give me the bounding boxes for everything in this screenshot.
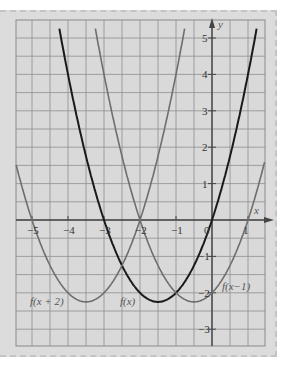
label-f-x-plus-2: f(x + 2) [30, 295, 64, 308]
label-f-x-minus-1: f(x−1) [222, 280, 251, 293]
y-tick-label: 5 [202, 32, 208, 44]
x-tick-label: −3 [99, 224, 111, 236]
x-tick-label: 0 [204, 224, 210, 236]
function-graph: −5−4−3−2−10154321−1−2−3 x y f(x + 2) f(x… [0, 0, 288, 368]
x-tick-label: −5 [27, 224, 39, 236]
y-tick-label: 4 [202, 68, 208, 80]
x-axis-label: x [253, 204, 259, 216]
y-tick-label: −1 [198, 250, 210, 262]
y-tick-label: −3 [198, 323, 210, 335]
x-tick-label: −4 [63, 224, 75, 236]
y-tick-label: −2 [198, 287, 210, 299]
x-tick-label: −1 [171, 224, 183, 236]
label-f-x: f(x) [120, 295, 136, 308]
x-axis-arrow-icon [264, 217, 274, 223]
y-tick-label: 2 [202, 141, 208, 153]
x-tick-label: 1 [243, 224, 249, 236]
x-tick-label: −2 [135, 224, 147, 236]
y-tick-label: 3 [202, 105, 208, 117]
y-axis-label: y [217, 18, 223, 30]
y-tick-label: 1 [202, 178, 208, 190]
